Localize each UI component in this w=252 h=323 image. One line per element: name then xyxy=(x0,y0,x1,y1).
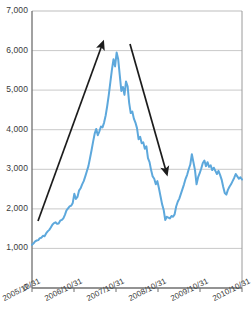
line-chart: 7,0006,0005,0004,0003,0002,0001,0000 200… xyxy=(0,0,252,323)
y-tick-label-4000: 4,000 xyxy=(0,124,28,134)
y-tick-label-1000: 1,000 xyxy=(0,242,28,252)
y-tick-label-7000: 7,000 xyxy=(0,5,28,15)
chart-canvas xyxy=(0,0,252,323)
y-tick-label-6000: 6,000 xyxy=(0,45,28,55)
y-tick-label-2000: 2,000 xyxy=(0,203,28,213)
uptrend-arrow xyxy=(38,45,102,221)
y-tick-label-5000: 5,000 xyxy=(0,84,28,94)
y-tick-label-3000: 3,000 xyxy=(0,163,28,173)
